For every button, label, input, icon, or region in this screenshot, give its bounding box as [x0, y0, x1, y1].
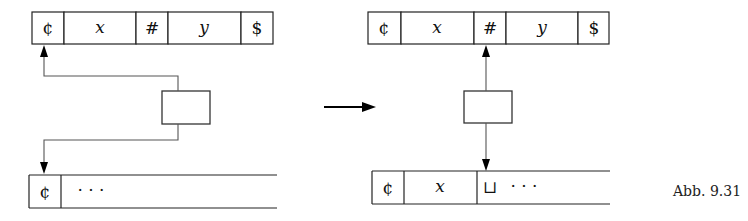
before-input-tape: ¢ x # y $	[32, 12, 273, 44]
tape-symbol-dollar: $	[589, 18, 600, 38]
arrow-down-icon	[482, 159, 490, 171]
tape-symbol-y: y	[536, 17, 547, 37]
before-configuration: ¢ x # y $ ¢ · · ·	[29, 12, 277, 208]
tape-symbol-x: x	[95, 17, 105, 37]
tape-symbol-blank: ⊔	[483, 177, 497, 197]
tape-symbol-y: y	[198, 17, 209, 37]
finite-control-box	[162, 91, 210, 124]
transition-arrow	[324, 102, 376, 112]
tape-symbol-cent: ¢	[43, 18, 54, 38]
finite-control-box	[464, 91, 512, 123]
input-head-connector	[44, 57, 178, 91]
tape-ellipsis: · · ·	[510, 176, 537, 196]
figure-caption: Abb. 9.31	[672, 183, 741, 199]
after-input-tape: ¢ x # y $	[368, 12, 609, 44]
turing-machine-configuration-diagram: ¢ x # y $ ¢ · · ·	[0, 0, 748, 221]
arrow-up-icon	[40, 45, 48, 57]
after-work-tape: ¢ x ⊔ · · ·	[372, 171, 610, 204]
tape-symbol-cent: ¢	[40, 182, 51, 202]
tape-symbol-dollar: $	[252, 18, 263, 38]
tape-symbol-separator: #	[483, 18, 497, 38]
after-configuration: ¢ x # y $ ¢ x ⊔ · · ·	[368, 12, 610, 204]
tape-symbol-cent: ¢	[383, 178, 394, 198]
arrow-down-icon	[40, 162, 48, 174]
tape-symbol-x: x	[435, 176, 445, 196]
tape-symbol-cent: ¢	[379, 18, 390, 38]
tape-symbol-x: x	[432, 17, 442, 37]
before-work-tape: ¢ · · ·	[29, 175, 277, 208]
arrow-up-icon	[482, 45, 490, 57]
work-head-connector	[44, 124, 178, 162]
tape-ellipsis: · · ·	[77, 180, 104, 200]
arrow-right-icon	[362, 102, 376, 112]
tape-symbol-separator: #	[145, 18, 159, 38]
